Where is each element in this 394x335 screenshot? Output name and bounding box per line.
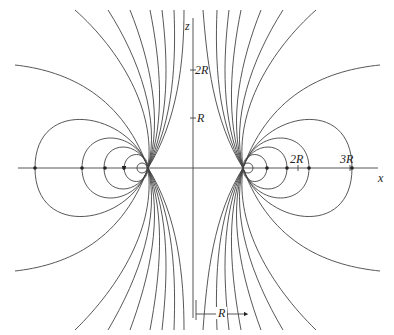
x-axis-label: x [378,172,383,184]
field-line-diagram [0,0,394,335]
z-axis-label: z [185,20,190,32]
x-tick-3R: 3R [340,153,353,165]
dimension-R-label: R [216,307,227,319]
inner-lines-left [75,10,184,330]
z-tick-2R: 2R [195,64,208,76]
z-tick-R: R [197,112,204,124]
x-tick-2R: 2R [290,153,303,165]
inner-lines-right [203,10,316,330]
